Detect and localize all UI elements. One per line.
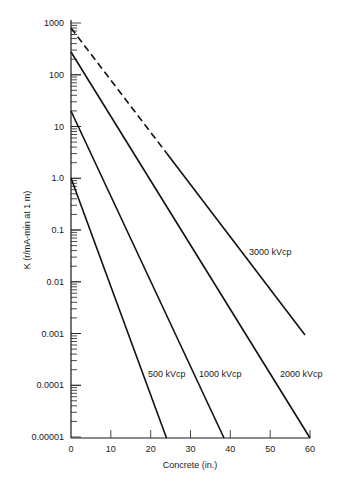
x-tick-50: 50 [265,444,275,454]
series-lines [71,28,310,438]
line-500kvcp [71,178,167,438]
label-500kvcp: 500 kVcp [148,369,186,379]
y-axis-title: K (r/mA-min at 1 m) [22,191,32,270]
line-2000kvcp [71,52,310,438]
x-tick-60: 60 [305,444,315,454]
x-axis-ticks [111,430,310,438]
line-1000kvcp [71,111,224,438]
x-tick-0: 0 [68,444,73,454]
y-tick-0.1: 0.1 [51,225,64,235]
y-tick-0.01: 0.01 [46,277,64,287]
y-tick-1: 1.0 [51,173,64,183]
label-2000kvcp: 2000 kVcp [280,369,323,379]
x-tick-10: 10 [106,444,116,454]
y-axis-ticks [71,23,81,437]
label-1000kvcp: 1000 kVcp [199,369,242,379]
label-3000kvcp: 3000 kVcp [249,247,292,257]
y-tick-0.00001: 0.00001 [31,432,64,442]
axes [71,20,310,438]
x-tick-30: 30 [185,444,195,454]
y-tick-0.0001: 0.0001 [36,380,64,390]
y-tick-1000: 1000 [44,18,64,28]
x-axis-title: Concrete (in.) [163,460,218,470]
x-tick-labels: 0 10 20 30 40 50 60 [68,444,315,454]
x-tick-40: 40 [225,444,235,454]
line-3000kvcp-solid [167,153,306,335]
y-tick-100: 100 [49,70,64,80]
series-labels: 500 kVcp 1000 kVcp 2000 kVcp 3000 kVcp [148,247,323,379]
y-tick-0.001: 0.001 [41,329,64,339]
y-tick-10: 10 [54,122,64,132]
y-tick-labels: 1000 100 10 1.0 0.1 0.01 0.001 0.0001 0.… [31,18,64,442]
line-3000kvcp-dashed [71,28,167,153]
x-tick-20: 20 [146,444,156,454]
attenuation-chart: 1000 100 10 1.0 0.1 0.01 0.001 0.0001 0.… [0,0,342,483]
